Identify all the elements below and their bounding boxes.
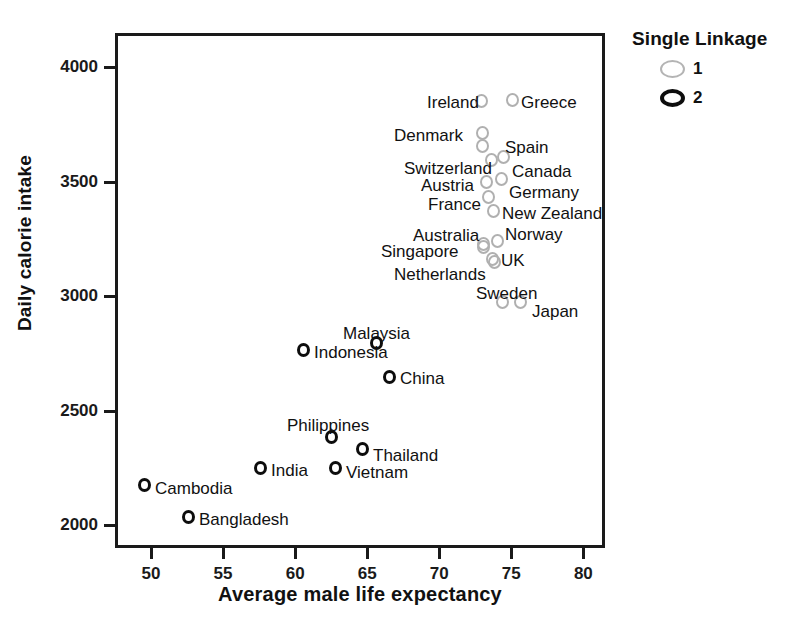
- y-tick-mark: [104, 410, 115, 413]
- data-point-marker: [254, 461, 267, 475]
- y-axis-title: Daily calorie intake: [14, 113, 36, 373]
- data-point-marker: [476, 139, 489, 153]
- y-tick-label: 4000: [20, 57, 98, 77]
- data-point-label: Philippines: [287, 417, 369, 434]
- legend-circle-icon: [660, 89, 685, 107]
- y-tick-label: 3000: [20, 286, 98, 306]
- x-tick-mark: [366, 548, 369, 559]
- legend-entries: 12: [632, 59, 797, 108]
- data-point-label: China: [400, 370, 444, 387]
- data-point-label: Austria: [421, 177, 474, 194]
- legend-item-1[interactable]: 1: [660, 59, 797, 79]
- data-point-label: Malaysia: [343, 325, 410, 342]
- data-point-label: Canada: [512, 163, 572, 180]
- legend-item-label: 2: [693, 88, 702, 108]
- x-tick-mark: [294, 548, 297, 559]
- x-tick-mark: [150, 548, 153, 559]
- legend-item-label: 1: [693, 59, 702, 79]
- x-tick-label: 60: [265, 564, 325, 584]
- data-point-label: Thailand: [373, 447, 438, 464]
- data-point-label: Vietnam: [346, 464, 408, 481]
- data-point-label: Greece: [521, 94, 577, 111]
- data-point-marker: [488, 255, 501, 269]
- x-tick-label: 75: [481, 564, 541, 584]
- y-tick-mark: [104, 524, 115, 527]
- data-point-label: Cambodia: [155, 480, 233, 497]
- data-point-label: Bangladesh: [199, 511, 289, 528]
- data-point-marker: [495, 172, 508, 186]
- data-point-label: Indonesia: [314, 344, 388, 361]
- x-tick-mark: [222, 548, 225, 559]
- data-point-marker: [383, 370, 396, 384]
- data-point-marker: [297, 343, 310, 357]
- data-point-label: New Zealand: [502, 205, 602, 222]
- data-point-label: Ireland: [427, 94, 479, 111]
- data-point-marker: [329, 461, 342, 475]
- y-tick-mark: [104, 295, 115, 298]
- data-point-label: Denmark: [394, 127, 463, 144]
- data-point-marker: [491, 234, 504, 248]
- legend-item-2[interactable]: 2: [660, 88, 797, 108]
- data-point-label: India: [271, 462, 308, 479]
- y-tick-label: 2000: [20, 515, 98, 535]
- data-point-label: Netherlands: [394, 266, 486, 283]
- data-point-label: Switzerland: [404, 160, 492, 177]
- data-point-marker: [487, 204, 500, 218]
- data-point-marker: [182, 510, 195, 524]
- x-tick-label: 70: [409, 564, 469, 584]
- y-tick-mark: [104, 66, 115, 69]
- x-tick-label: 65: [337, 564, 397, 584]
- data-point-marker: [476, 126, 489, 140]
- scatter-plot-figure: Daily calorie intake Average male life e…: [0, 0, 805, 630]
- data-point-label: Sweden: [476, 285, 537, 302]
- x-tick-label: 55: [193, 564, 253, 584]
- x-tick-mark: [438, 548, 441, 559]
- data-point-label: Spain: [505, 139, 548, 156]
- data-point-label: Germany: [509, 184, 579, 201]
- data-point-label: Singapore: [381, 243, 459, 260]
- y-tick-label: 2500: [20, 401, 98, 421]
- x-tick-label: 50: [121, 564, 181, 584]
- data-point-label: Japan: [532, 303, 578, 320]
- legend-circle-icon: [660, 60, 685, 78]
- y-tick-mark: [104, 181, 115, 184]
- x-axis-title: Average male life expectancy: [115, 583, 605, 606]
- y-tick-label: 3500: [20, 172, 98, 192]
- x-tick-mark: [510, 548, 513, 559]
- data-point-marker: [138, 478, 151, 492]
- data-point-label: France: [428, 196, 481, 213]
- data-point-marker: [482, 190, 495, 204]
- legend: Single Linkage 12: [632, 28, 797, 108]
- x-tick-label: 80: [553, 564, 613, 584]
- data-point-label: Norway: [505, 226, 563, 243]
- x-tick-mark: [582, 548, 585, 559]
- legend-title: Single Linkage: [632, 28, 797, 50]
- data-point-marker: [356, 442, 369, 456]
- data-point-label: UK: [501, 252, 525, 269]
- data-point-marker: [506, 93, 519, 107]
